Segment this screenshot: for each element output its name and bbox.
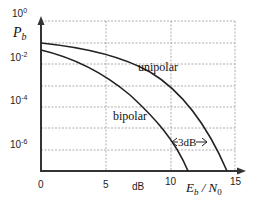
svg-text:0: 0 [38, 179, 44, 190]
svg-text:10-4: 10-4 [10, 94, 27, 106]
unipolar-label: unipolar [138, 60, 178, 74]
grid [41, 21, 235, 171]
x-axis-arrow-icon [237, 168, 246, 175]
svg-text:10: 10 [165, 176, 177, 187]
svg-text:10-2: 10-2 [10, 51, 27, 63]
y-axis-label: Pb [12, 25, 27, 42]
svg-text:10-6: 10-6 [10, 138, 27, 150]
x-axis-label: Eb / N0 [185, 180, 222, 197]
svg-text:100: 100 [12, 7, 27, 19]
svg-text:3dB: 3dB [178, 136, 196, 148]
y-axis-arrow-icon [38, 16, 45, 25]
gap-annotation: 3dB [172, 136, 207, 148]
bipolar-label: bipolar [113, 109, 147, 123]
svg-text:5: 5 [103, 179, 109, 190]
x-axis-unit: dB [132, 181, 145, 192]
axes [38, 16, 247, 175]
svg-text:15: 15 [230, 176, 242, 187]
ber-chart: 100 10-2 10-4 10-6 Pb 0 5 10 15 dB Eb / … [0, 0, 253, 202]
